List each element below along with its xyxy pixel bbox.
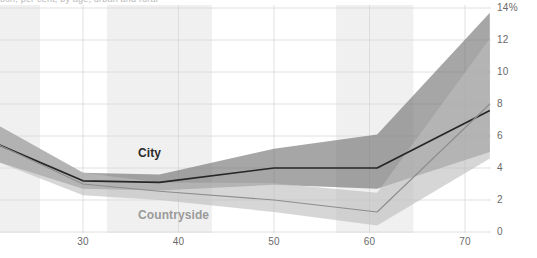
- y-tick-label: 6: [497, 131, 503, 141]
- y-tick-label: 14%: [497, 3, 518, 13]
- clipped-title-text: tion, per cent, by age, urban and rural: [0, 0, 537, 4]
- series-label-countryside: Countryside: [138, 208, 209, 222]
- chart-canvas: [0, 5, 491, 233]
- x-tick-label: 50: [268, 236, 280, 248]
- y-tick-label: 8: [497, 99, 503, 109]
- y-tick-label: 10: [497, 67, 509, 77]
- x-tick-label: 70: [459, 236, 471, 248]
- uncertainty-bands: [0, 13, 490, 226]
- plot-area: [0, 5, 491, 233]
- x-tick-label: 60: [364, 236, 376, 248]
- series-label-city: City: [138, 146, 161, 160]
- y-axis: 02468101214%: [497, 0, 537, 258]
- x-tick-label: 40: [173, 236, 185, 248]
- x-tick-label: 30: [77, 236, 89, 248]
- y-tick-label: 12: [497, 35, 509, 45]
- y-tick-label: 2: [497, 195, 503, 205]
- y-tick-label: 0: [497, 227, 503, 237]
- y-tick-label: 4: [497, 163, 503, 173]
- x-axis: 3040506070: [0, 236, 491, 254]
- chart-figure: tion, per cent, by age, urban and rural …: [0, 0, 537, 258]
